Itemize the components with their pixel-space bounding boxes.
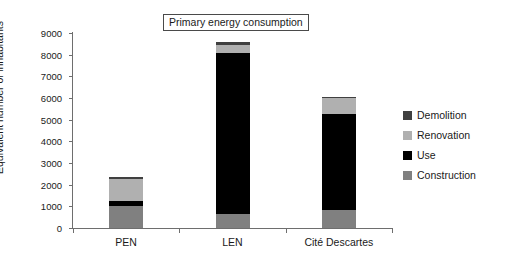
- y-tick-label: 4000: [41, 137, 62, 147]
- bar-segment-use: [322, 114, 356, 209]
- x-tick: [392, 228, 393, 233]
- chart-container: Primary energy consumption Equivalent nu…: [0, 0, 511, 267]
- legend-item-construction[interactable]: Construction: [403, 165, 476, 185]
- plot-area: 0100020003000400050006000700080009000: [73, 33, 392, 228]
- y-axis-title: Equivalent number of inhabitants: [0, 0, 5, 195]
- legend-label: Construction: [417, 169, 476, 181]
- bar-segment-use: [216, 53, 250, 214]
- y-tick-label: 2000: [41, 180, 62, 190]
- legend-item-use[interactable]: Use: [403, 145, 476, 165]
- bar-segment-renovation: [216, 45, 250, 53]
- legend-swatch-icon: [403, 131, 412, 140]
- y-tick-label: 5000: [41, 115, 62, 125]
- y-tick: 1000: [69, 206, 73, 207]
- legend-label: Renovation: [417, 129, 470, 141]
- legend-swatch-icon: [403, 111, 412, 120]
- legend-label: Use: [417, 149, 436, 161]
- y-tick-label: 0: [57, 224, 62, 234]
- y-tick: 5000: [69, 120, 73, 121]
- y-tick-label: 9000: [41, 29, 62, 39]
- bar-segment-construction: [216, 214, 250, 228]
- chart-legend: DemolitionRenovationUseConstruction: [403, 105, 476, 185]
- y-tick-label: 8000: [41, 50, 62, 60]
- x-axis-label-pen: PEN: [66, 236, 186, 248]
- bar-cité-descartes: [322, 97, 356, 228]
- legend-item-demolition[interactable]: Demolition: [403, 105, 476, 125]
- x-tick: [179, 228, 180, 233]
- legend-swatch-icon: [403, 171, 412, 180]
- x-axis-label-cité-descartes: Cité Descartes: [279, 236, 399, 248]
- y-tick-label: 3000: [41, 159, 62, 169]
- bar-segment-construction: [109, 206, 143, 228]
- legend-swatch-icon: [403, 151, 412, 160]
- bar-pen: [109, 177, 143, 228]
- y-tick-label: 6000: [41, 94, 62, 104]
- x-axis-line: [72, 228, 393, 229]
- y-tick: 9000: [69, 33, 73, 34]
- legend-label: Demolition: [417, 109, 467, 121]
- bar-segment-renovation: [322, 98, 356, 114]
- chart-title: Primary energy consumption: [163, 14, 309, 31]
- bar-len: [216, 42, 250, 228]
- y-tick: 7000: [69, 76, 73, 77]
- y-tick: 3000: [69, 163, 73, 164]
- y-tick: 2000: [69, 185, 73, 186]
- x-tick: [286, 228, 287, 233]
- x-tick: [73, 228, 74, 233]
- bar-segment-construction: [322, 210, 356, 228]
- y-tick-label: 1000: [41, 202, 62, 212]
- bar-segment-renovation: [109, 179, 143, 201]
- y-tick: 4000: [69, 141, 73, 142]
- x-axis-label-len: LEN: [173, 236, 293, 248]
- y-tick: 8000: [69, 55, 73, 56]
- y-tick: 6000: [69, 98, 73, 99]
- y-tick-label: 7000: [41, 72, 62, 82]
- legend-item-renovation[interactable]: Renovation: [403, 125, 476, 145]
